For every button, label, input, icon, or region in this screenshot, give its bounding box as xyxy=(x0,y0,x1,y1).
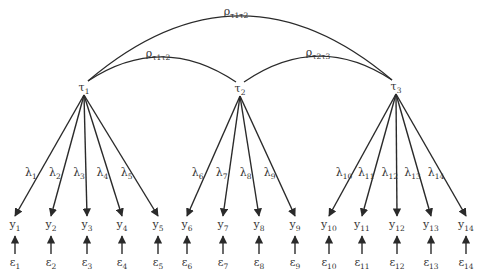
error-term-y3: ε3 xyxy=(82,256,93,271)
loading-label-y6-subscript: 6 xyxy=(199,172,204,181)
correlation-arcs xyxy=(88,16,392,82)
indicator-y12-subscript: 12 xyxy=(395,224,405,233)
indicator-y2-subscript: 2 xyxy=(52,224,57,233)
loading-path-y10 xyxy=(329,94,396,216)
loading-label-y8-subscript: 8 xyxy=(247,172,252,181)
loading-label-y11-symbol: λ xyxy=(358,166,365,179)
latent-factor-t3-subscript: 3 xyxy=(397,86,402,95)
loading-path-y12 xyxy=(396,94,397,216)
error-term-y1: ε1 xyxy=(10,256,20,271)
loading-label-y4-symbol: λ xyxy=(97,166,104,179)
indicator-y1: y1 xyxy=(9,218,21,233)
loading-path-y8 xyxy=(240,96,259,216)
error-term-y12: ε12 xyxy=(389,256,404,271)
loading-path-y1 xyxy=(15,95,84,216)
loading-label-y14-symbol: λ xyxy=(428,166,435,179)
indicator-y9-subscript: 9 xyxy=(296,224,301,233)
loading-path-y4 xyxy=(84,95,122,216)
error-term-y8: ε8 xyxy=(254,256,265,271)
loading-label-y13: λ13 xyxy=(404,166,421,181)
loading-path-y5 xyxy=(84,95,158,216)
indicator-y14-subscript: 14 xyxy=(464,224,474,233)
error-term-y14-subscript: 14 xyxy=(464,262,474,271)
error-term-y12-subscript: 12 xyxy=(395,262,405,271)
error-term-y9: ε9 xyxy=(290,256,301,271)
loading-path-y9 xyxy=(240,96,295,216)
loading-path-y14 xyxy=(396,94,466,216)
loading-label-y1-subscript: 1 xyxy=(32,172,37,181)
indicator-y7: y7 xyxy=(217,218,229,233)
error-term-y4: ε4 xyxy=(117,256,128,271)
indicator-y13: y13 xyxy=(422,218,439,233)
loading-label-y6: λ6 xyxy=(192,166,204,181)
loading-path-y3 xyxy=(84,95,87,216)
latent-factor-t1: τ1 xyxy=(79,81,90,96)
loading-label-y7-symbol: λ xyxy=(216,166,223,179)
indicator-y8: y8 xyxy=(253,218,265,233)
indicator-y3: y3 xyxy=(81,218,93,233)
loading-label-y2: λ2 xyxy=(49,166,61,181)
indicator-y11-subscript: 11 xyxy=(360,224,370,233)
loading-label-y10: λ10 xyxy=(336,166,353,181)
correlation-label-t1-t3-subscript: τ1τ2 xyxy=(230,11,248,20)
loading-label-y13-symbol: λ xyxy=(404,166,411,179)
loading-label-y9-symbol: λ xyxy=(264,166,271,179)
latent-factor-t1-subscript: 1 xyxy=(85,87,90,96)
loading-label-y7: λ7 xyxy=(216,166,228,181)
loading-label-y5-symbol: λ xyxy=(121,166,128,179)
loading-label-y5-subscript: 5 xyxy=(128,172,133,181)
error-term-y2-subscript: 2 xyxy=(51,262,56,271)
loading-path-y11 xyxy=(362,94,396,216)
indicator-y9: y9 xyxy=(289,218,301,233)
indicator-y6: y6 xyxy=(181,218,193,233)
error-term-y11-subscript: 11 xyxy=(360,262,370,271)
indicator-y4: y4 xyxy=(116,218,128,233)
error-term-y9-subscript: 9 xyxy=(295,262,300,271)
indicator-y8-subscript: 8 xyxy=(260,224,265,233)
loading-label-y5: λ5 xyxy=(121,166,133,181)
loading-label-y12-subscript: 12 xyxy=(388,172,398,181)
loading-label-y14: λ14 xyxy=(428,166,445,181)
loading-label-y8: λ8 xyxy=(240,166,252,181)
loading-label-y3: λ3 xyxy=(73,166,85,181)
error-term-y13-subscript: 13 xyxy=(429,262,439,271)
loading-path-y13 xyxy=(396,94,431,216)
loading-label-y11: λ11 xyxy=(358,166,375,181)
measurement-model-diagram: ρτ1τ2ρτ1τ2ρτ2τ3τ1τ2τ3λ1y1ε1λ2y2ε2λ3y3ε3λ… xyxy=(0,0,484,275)
error-term-y10-subscript: 10 xyxy=(327,262,337,271)
error-term-y5: ε5 xyxy=(153,256,164,271)
correlation-label-t2-t3-subscript: τ2τ3 xyxy=(312,52,330,61)
correlation-label-t1-t2: ρτ1τ2 xyxy=(146,47,171,62)
indicator-y5-subscript: 5 xyxy=(159,224,164,233)
loading-label-y1-symbol: λ xyxy=(25,166,32,179)
indicator-y5: y5 xyxy=(152,218,164,233)
indicator-y1-subscript: 1 xyxy=(16,224,21,233)
correlation-label-t1-t2-subscript: τ1τ2 xyxy=(152,53,170,62)
loading-label-y13-subscript: 13 xyxy=(411,172,421,181)
indicator-y4-subscript: 4 xyxy=(123,224,128,233)
latent-factor-t2: τ2 xyxy=(235,82,246,97)
error-term-y7: ε7 xyxy=(218,256,229,271)
loading-label-y6-symbol: λ xyxy=(192,166,199,179)
error-term-y6: ε6 xyxy=(182,256,193,271)
indicator-y10-subscript: 10 xyxy=(327,224,337,233)
correlation-arc-t1-t3 xyxy=(88,16,392,81)
error-term-y4-subscript: 4 xyxy=(122,262,127,271)
error-term-y11: ε11 xyxy=(354,256,369,271)
indicator-y14: y14 xyxy=(457,218,474,233)
loading-label-y3-subscript: 3 xyxy=(80,172,85,181)
error-term-y14: ε14 xyxy=(458,256,473,271)
loading-path-y2 xyxy=(51,95,84,216)
loading-label-y9-subscript: 9 xyxy=(271,172,276,181)
loading-label-y8-symbol: λ xyxy=(240,166,247,179)
loading-label-y12-symbol: λ xyxy=(381,166,388,179)
loading-label-y10-subscript: 10 xyxy=(343,172,353,181)
loading-label-y11-subscript: 11 xyxy=(365,172,375,181)
indicator-y12: y12 xyxy=(388,218,405,233)
error-term-y5-subscript: 5 xyxy=(158,262,163,271)
error-term-y8-subscript: 8 xyxy=(259,262,264,271)
error-term-y13: ε13 xyxy=(423,256,438,271)
diagram-labels: ρτ1τ2ρτ1τ2ρτ2τ3τ1τ2τ3λ1y1ε1λ2y2ε2λ3y3ε3λ… xyxy=(9,5,475,271)
diagram-canvas: ρτ1τ2ρτ1τ2ρτ2τ3τ1τ2τ3λ1y1ε1λ2y2ε2λ3y3ε3λ… xyxy=(0,0,484,275)
loading-label-y1: λ1 xyxy=(25,166,37,181)
